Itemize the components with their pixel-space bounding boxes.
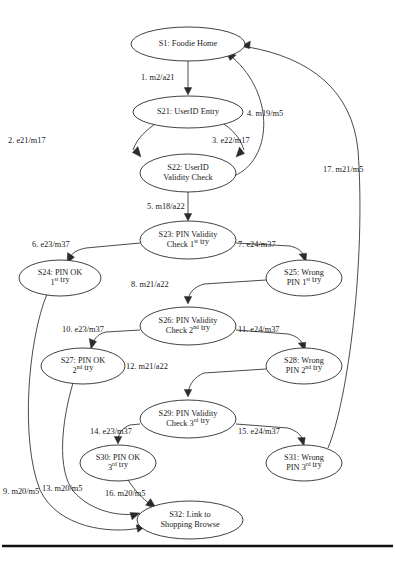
state-diagram: S1: Foodie HomeS21: UserID EntryS22: Use… [0, 0, 395, 567]
edge-label: 7. e24/m37 [238, 240, 276, 249]
edge-label: 12. m21/a22 [126, 362, 168, 371]
edge-path [70, 243, 140, 258]
nodes-layer: S1: Foodie HomeS21: UserID EntryS22: Use… [19, 27, 342, 539]
diagram-page: S1: Foodie HomeS21: UserID EntryS22: Use… [0, 0, 395, 567]
edge-label: 3. e22/m17 [212, 136, 250, 145]
edge-S25-to-S26 [184, 280, 266, 304]
state-node-s32[interactable]: S32: Link toShopping Browse [137, 501, 243, 539]
state-label-line: S32: Link to [169, 510, 211, 519]
state-label-line: S22: UserID [167, 163, 209, 172]
state-node-s22[interactable]: S22: UserIDValidity Check [140, 154, 236, 192]
edge-label: 16. m20/m5 [105, 489, 145, 498]
edge-label: 14. e23/m37 [90, 427, 132, 436]
state-node-s26[interactable]: S26: PIN ValidityCheck 2nd try [140, 307, 236, 345]
edge-path [188, 369, 266, 392]
edge-label: 2. e21/m17 [8, 136, 46, 145]
state-label-line: S21: UserID Entry [157, 107, 220, 116]
edge-label: 10. e23/m37 [62, 325, 104, 334]
edge-label: 8. m21/a22 [131, 280, 169, 289]
state-node-s1[interactable]: S1: Foodie Home [131, 27, 245, 61]
edge-label: 13. m20/m5 [42, 484, 82, 493]
state-label-line: Shopping Browse [160, 520, 220, 529]
edge-S1-to-S21 [184, 61, 192, 95]
edge-label: 5. m18/a22 [147, 202, 185, 211]
edge-S28-to-S29 [184, 369, 266, 397]
edge-label: 4. m19/m5 [247, 109, 283, 118]
edge-path [133, 124, 155, 150]
state-node-s28[interactable]: S28: WrongPIN 2nd try [266, 348, 342, 384]
state-node-s29[interactable]: S29: PIN ValidityCheck 3rd try [140, 400, 236, 438]
arrowhead-icon [184, 297, 192, 305]
edge-label: 15. e24/m37 [238, 427, 280, 436]
edge-label: 1. m2/a21 [141, 73, 175, 82]
arrowhead-icon [89, 339, 96, 350]
state-node-s27[interactable]: S27: PIN OK2nd try [41, 348, 125, 384]
state-node-s24[interactable]: S24: PIN OK1st try [19, 260, 101, 296]
arrowhead-icon [184, 214, 192, 222]
state-node-s23[interactable]: S23: PIN ValidityCheck 1st try [140, 221, 236, 259]
state-node-s21[interactable]: S21: UserID Entry [133, 96, 243, 128]
edge-S22-to-S23 [184, 192, 192, 221]
state-node-s25[interactable]: S25: WrongPIN 1st try [266, 260, 342, 296]
edge-label: 6. e23/m37 [32, 240, 70, 249]
edge-label: 17. m21/m5 [323, 165, 363, 174]
arrowhead-icon [184, 390, 192, 398]
edge-S23-to-S24 [67, 243, 140, 263]
edge-label: 9. m20/m5 [3, 487, 39, 496]
state-label-line: S23: PIN Validity [159, 230, 219, 239]
state-label-line: Validity Check [163, 173, 213, 182]
edge-path [188, 280, 266, 299]
edge-label: 11. e24/m37 [238, 325, 280, 334]
state-label-line: S1: Foodie Home [159, 39, 218, 48]
state-node-s31[interactable]: S31: WrongPIN 3rd try [266, 445, 342, 481]
arrowhead-icon [184, 88, 192, 96]
state-node-s30[interactable]: S30: PIN OK3rd try [80, 445, 156, 481]
edge-S21-to-S22 [132, 124, 155, 157]
arrowhead-icon [114, 437, 122, 445]
